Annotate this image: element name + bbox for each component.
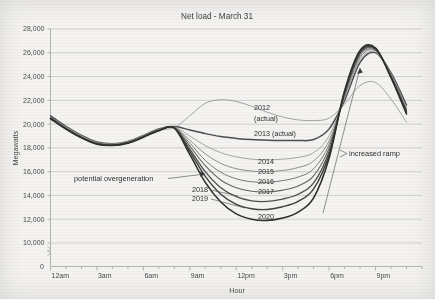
series-label: 2016	[258, 177, 274, 186]
x-tick-label: 9pm	[377, 272, 391, 280]
series-label: 2017	[258, 187, 274, 196]
y-axis-title: Megawatts	[11, 130, 20, 165]
series-label: 2012	[254, 103, 270, 112]
x-tick-label: 3pm	[284, 272, 298, 280]
series-label-secondary: (actual)	[254, 114, 278, 123]
y-tick-label: 22,000	[23, 97, 45, 104]
y-tick-label: 12,000	[23, 216, 45, 223]
y-tick-label: 14,000	[23, 192, 45, 199]
potential-overgeneration-label: potential overgeneration	[74, 174, 153, 183]
y-tick-label: 28,000	[23, 25, 45, 32]
series-label: 2019	[192, 194, 208, 203]
y-tick-label: 20,000	[23, 121, 45, 128]
series-label: 2015	[258, 167, 274, 176]
y-tick-label: 10,000	[23, 239, 45, 246]
y-tick-label: 16,000	[23, 168, 45, 175]
y-axis-zero-label: 0	[40, 263, 44, 270]
y-tick-label: 18,000	[23, 144, 45, 151]
net-load-line-chart: Net load - March 31 10,00012,00014,00016…	[0, 0, 435, 299]
x-axis-title: Hour	[229, 286, 245, 295]
series-label: 2014	[258, 157, 274, 166]
series-label: 2020	[258, 212, 274, 221]
series-label: 2013 (actual)	[254, 129, 296, 138]
y-tick-label: 26,000	[23, 49, 45, 56]
x-tick-label: 12pm	[237, 272, 255, 280]
x-tick-label: 6am	[144, 272, 158, 279]
series-label: 2018	[192, 185, 208, 194]
x-tick-label: 3am	[98, 272, 112, 279]
chart-figure: Net load - March 31 10,00012,00014,00016…	[0, 0, 435, 299]
x-tick-label: 12am	[52, 272, 70, 279]
y-tick-label: 24,000	[23, 73, 45, 80]
increased-ramp-label: increased ramp	[349, 149, 400, 158]
x-tick-label: 6pm	[330, 272, 344, 280]
x-tick-label: 9am	[191, 272, 205, 279]
chart-title: Net load - March 31	[181, 12, 253, 21]
